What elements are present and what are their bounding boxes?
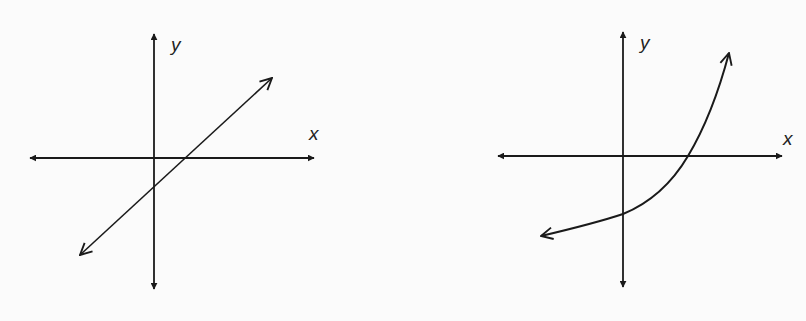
- y-axis-label-right: y: [640, 33, 650, 52]
- exponential-function-curve: [541, 53, 729, 236]
- two-graph-figure: y x y x: [0, 0, 806, 321]
- x-axis-label-left: x: [309, 124, 319, 143]
- graph-linear: [0, 0, 806, 321]
- y-axis-label-left: y: [171, 35, 181, 54]
- linear-function-line: [80, 78, 272, 255]
- x-axis-label-right: x: [783, 129, 793, 148]
